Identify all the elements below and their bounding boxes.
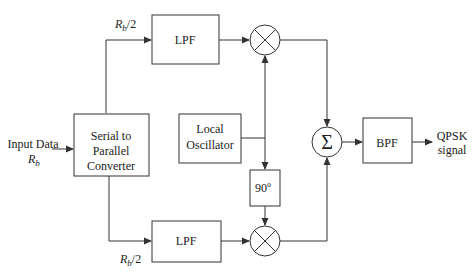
top-rate-label: Rb/2	[114, 17, 136, 33]
top-mixer	[250, 25, 280, 55]
converter-label-2: Parallel	[93, 144, 130, 158]
converter-label-1: Serial to	[91, 129, 131, 143]
qpsk-modulator-diagram: Input Data Rb Serial to Parallel Convert…	[0, 0, 476, 275]
converter-label-3: Converter	[87, 159, 135, 173]
bottom-mixer	[250, 226, 280, 256]
top-mixer-to-summer	[280, 40, 327, 126]
bottom-branch-line	[109, 176, 151, 241]
phase-shift-label: 90o	[255, 180, 271, 195]
output-label-1: QPSK	[437, 129, 468, 143]
oscillator-label-1: Local	[196, 122, 224, 136]
bpf-label: BPF	[376, 136, 398, 150]
input-rate-label: Rb	[27, 152, 40, 168]
top-branch-line	[106, 40, 151, 113]
top-lpf-label: LPF	[175, 33, 196, 47]
bottom-mixer-to-summer	[280, 158, 327, 241]
input-data-label: Input Data	[8, 137, 60, 151]
bottom-rate-label: Rb/2	[119, 252, 141, 268]
output-label-2: signal	[438, 143, 467, 157]
bottom-lpf-label: LPF	[176, 234, 197, 248]
summer-sigma-icon: Σ	[321, 131, 333, 153]
oscillator-label-2: Oscillator	[186, 138, 233, 152]
